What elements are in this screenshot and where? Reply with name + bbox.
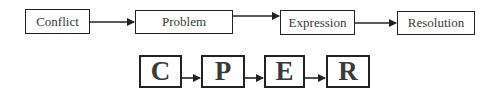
node-e: E bbox=[264, 55, 305, 88]
node-problem: Problem bbox=[135, 10, 233, 34]
node-conflict: Conflict bbox=[25, 9, 90, 34]
node-label: Conflict bbox=[36, 14, 79, 30]
node-expression: Expression bbox=[280, 10, 355, 35]
node-c: C bbox=[139, 55, 182, 88]
node-label: E bbox=[275, 56, 293, 87]
node-label: C bbox=[151, 56, 171, 87]
node-label: Problem bbox=[162, 14, 206, 30]
node-p: P bbox=[201, 55, 245, 88]
node-r: R bbox=[326, 55, 370, 88]
node-label: P bbox=[215, 56, 232, 87]
node-label: Resolution bbox=[408, 15, 464, 31]
node-label: Expression bbox=[289, 15, 347, 31]
node-label: R bbox=[338, 56, 358, 87]
node-resolution: Resolution bbox=[397, 11, 475, 35]
